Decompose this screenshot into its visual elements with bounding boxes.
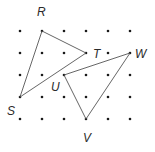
grid-dot: [19, 52, 22, 55]
grid-dot: [107, 52, 110, 55]
grid-dot: [107, 96, 110, 99]
grid-dot: [85, 74, 88, 77]
grid-dot: [107, 118, 110, 121]
grid-dot: [107, 74, 110, 77]
grid-dot: [85, 96, 88, 99]
grid-dots: [19, 30, 132, 121]
grid-dot: [63, 30, 66, 33]
label-W: W: [135, 47, 148, 61]
grid-dot: [63, 52, 66, 55]
grid-dot: [63, 118, 66, 121]
grid-dot: [129, 118, 132, 121]
grid-dot: [19, 118, 22, 121]
label-S: S: [7, 104, 15, 118]
grid-dot: [19, 74, 22, 77]
grid-dot: [107, 30, 110, 33]
grid-dot: [129, 74, 132, 77]
grid-dot: [41, 118, 44, 121]
grid-dot: [85, 30, 88, 33]
grid-dot: [19, 30, 22, 33]
grid-dot: [129, 96, 132, 99]
grid-dot: [63, 96, 66, 99]
grid-dot: [129, 30, 132, 33]
triangles: [20, 31, 130, 119]
grid-dot: [41, 52, 44, 55]
label-R: R: [37, 5, 46, 19]
grid-dot: [41, 74, 44, 77]
grid-dot: [41, 96, 44, 99]
label-V: V: [83, 131, 92, 145]
dot-grid-diagram: R T W U S V: [0, 0, 155, 152]
triangle-UVW: [64, 53, 130, 119]
label-T: T: [93, 47, 102, 61]
label-U: U: [51, 80, 60, 94]
